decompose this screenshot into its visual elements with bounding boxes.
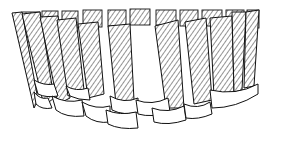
front-slat <box>244 10 259 88</box>
slat-structure-figure <box>0 0 284 150</box>
curved-band <box>184 102 212 119</box>
front-slat <box>210 16 234 96</box>
curved-band <box>82 102 110 122</box>
line-drawing <box>0 0 284 150</box>
back-slat <box>130 9 150 25</box>
back-slat <box>108 10 126 26</box>
front-slat <box>155 20 184 108</box>
front-slat <box>185 18 212 104</box>
front-slat <box>108 24 134 104</box>
